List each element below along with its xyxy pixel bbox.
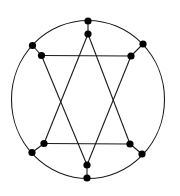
vertex-i-top — [84, 30, 91, 37]
edge-i-ur-i-bot — [87, 56, 131, 165]
vertex-o-ll — [28, 149, 35, 156]
edge-i-top-i-ll — [44, 34, 88, 144]
edges-group — [32, 21, 143, 178]
vertices-group — [28, 17, 146, 181]
vertex-i-ur — [127, 52, 134, 59]
hexagram-circle-graph — [0, 0, 180, 196]
vertex-o-top — [84, 17, 91, 24]
vertex-o-bot — [83, 174, 90, 181]
vertex-o-lr — [138, 150, 145, 157]
vertex-o-ul — [29, 42, 36, 49]
edge-i-ll-i-lr — [44, 144, 130, 145]
vertex-i-lr — [126, 140, 133, 147]
edge-i-bot-i-ul — [42, 56, 88, 166]
vertex-i-ul — [38, 52, 45, 59]
vertex-o-ur — [139, 40, 146, 47]
edge-i-lr-i-top — [88, 34, 130, 144]
edge-i-ul-i-ur — [42, 56, 132, 57]
vertex-i-bot — [83, 161, 90, 168]
vertex-i-ll — [40, 140, 47, 147]
